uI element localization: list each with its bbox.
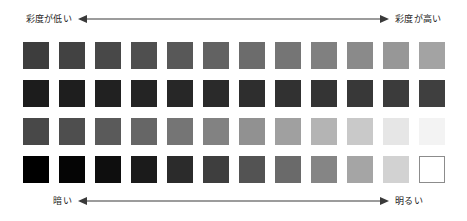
brightness-axis-left-label: 暗い [0,197,78,206]
color-swatch [383,42,409,69]
color-swatch [311,156,337,183]
saturation-brightness-chart: 彩度が低い 彩度が高い 暗い 明るい [0,0,467,221]
axis-line [86,201,381,202]
color-swatch [383,156,409,183]
color-swatch [95,118,121,145]
color-swatch [311,118,337,145]
color-swatch [23,156,49,183]
color-swatch [275,118,301,145]
arrow-right-icon [380,197,389,205]
color-swatch [239,118,265,145]
color-swatch [383,118,409,145]
saturation-axis-arrow [78,13,389,25]
arrow-right-icon [380,15,389,23]
color-swatch [419,80,445,107]
color-swatch [419,118,445,145]
color-swatch [347,80,373,107]
color-swatch [347,118,373,145]
color-swatch [95,80,121,107]
color-swatch [275,156,301,183]
color-swatch [23,118,49,145]
brightness-axis-arrow [78,195,389,207]
color-swatch [239,80,265,107]
saturation-axis-left-label: 彩度が低い [0,15,78,24]
swatch-row [23,118,445,145]
color-swatch [203,118,229,145]
color-swatch [59,156,85,183]
color-swatch [59,118,85,145]
color-swatch [167,80,193,107]
color-swatch [167,156,193,183]
color-swatch [275,80,301,107]
saturation-axis-right-label: 彩度が高い [389,15,467,24]
color-swatch [311,80,337,107]
brightness-axis: 暗い 明るい [0,190,467,212]
swatch-row [23,42,445,69]
swatch-row [23,156,445,183]
swatch-grid [23,42,445,186]
color-swatch [59,42,85,69]
color-swatch [95,42,121,69]
color-swatch [59,80,85,107]
color-swatch [383,80,409,107]
color-swatch [203,80,229,107]
color-swatch [23,80,49,107]
color-swatch [239,42,265,69]
color-swatch [131,156,157,183]
color-swatch [131,118,157,145]
color-swatch [275,42,301,69]
color-swatch [131,80,157,107]
color-swatch [239,156,265,183]
saturation-axis: 彩度が低い 彩度が高い [0,8,467,30]
color-swatch [23,42,49,69]
color-swatch [311,42,337,69]
color-swatch [167,42,193,69]
color-swatch [167,118,193,145]
swatch-row [23,80,445,107]
axis-line [86,19,381,20]
brightness-axis-right-label: 明るい [389,197,467,206]
color-swatch [419,42,445,69]
color-swatch [419,156,445,183]
color-swatch [131,42,157,69]
color-swatch [203,156,229,183]
color-swatch [203,42,229,69]
color-swatch [95,156,121,183]
color-swatch [347,42,373,69]
color-swatch [347,156,373,183]
